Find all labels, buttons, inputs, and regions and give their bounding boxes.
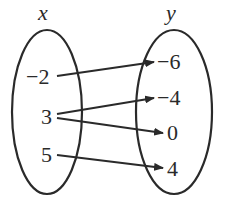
range-label: y <box>164 0 176 25</box>
domain-value-neg2: −2 <box>26 64 49 89</box>
mapping-diagram: x y −2 3 5 −6 −4 0 4 <box>0 0 245 198</box>
arrow-3-to-0 <box>57 118 163 133</box>
range-value-4: 4 <box>167 156 178 181</box>
domain-label: x <box>37 0 48 25</box>
range-value-neg6: −6 <box>157 49 180 74</box>
range-value-0: 0 <box>167 120 178 145</box>
domain-value-3: 3 <box>41 104 52 129</box>
domain-value-5: 5 <box>41 142 52 167</box>
range-value-neg4: −4 <box>157 85 180 110</box>
arrow-3-to-neg4 <box>57 98 154 114</box>
